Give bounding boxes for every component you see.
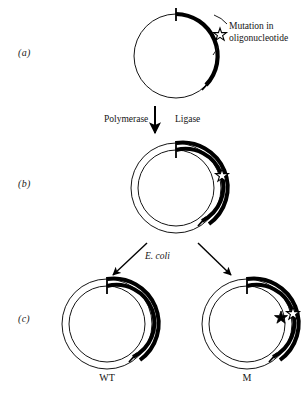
ligase-label: Ligase [175,114,200,124]
mutation-marker-upper-tick [214,15,227,24]
plasmid-single-strand-a [128,6,238,106]
mutation-callout-line1: Mutation in [229,20,288,32]
mutation-callout: Mutation in oligonucleotide [229,20,288,44]
star-filled-icon [275,311,288,323]
panel-label-b: (b) [18,178,31,189]
ecoli-label: E. coli [145,251,170,261]
mutagenesis-figure: (a) Mutation in oligonucleotide Polymera… [0,0,307,398]
plasmid-mutant [197,272,302,374]
branch-arrow-right-icon [198,243,231,275]
mutation-callout-line2: oligonucleotide [229,32,288,44]
inner-strand-circle [69,286,145,362]
product-label-wt: WT [67,372,147,383]
plasmid-heteroduplex-b [126,136,238,244]
panel-label-a: (a) [18,47,31,58]
plasmid-wild-type [57,272,162,374]
inner-strand-circle [138,150,214,226]
inner-strand-circle [209,286,285,362]
branch-arrow-left-icon [113,243,147,275]
product-label-m: M [207,372,287,383]
polymerase-label: Polymerase [104,114,148,124]
panel-label-c: (c) [18,313,30,324]
oligonucleotide-arc [176,14,218,85]
